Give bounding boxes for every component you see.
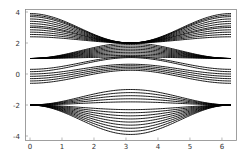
chart-plot: 0123456-4-2024 <box>0 0 250 153</box>
data-curves <box>30 14 231 135</box>
x-tick-label: 4 <box>156 143 161 151</box>
x-tick-label: 1 <box>60 143 64 151</box>
x-tick-label: 0 <box>28 143 32 151</box>
curve-top <box>30 37 231 43</box>
curve-top <box>30 24 231 43</box>
y-tick-label: -4 <box>13 133 21 141</box>
curve-top <box>30 14 231 43</box>
x-tick-label: 2 <box>92 143 96 151</box>
x-tick-label: 3 <box>124 143 128 151</box>
x-tick-label: 6 <box>220 143 225 151</box>
curve-top <box>30 34 231 43</box>
y-tick-label: 0 <box>16 71 20 79</box>
x-tick-label: 5 <box>188 143 192 151</box>
y-tick-label: 4 <box>16 9 21 17</box>
y-tick-label: 2 <box>16 40 20 48</box>
curve-top <box>30 32 231 43</box>
y-tick-label: -2 <box>13 102 20 110</box>
